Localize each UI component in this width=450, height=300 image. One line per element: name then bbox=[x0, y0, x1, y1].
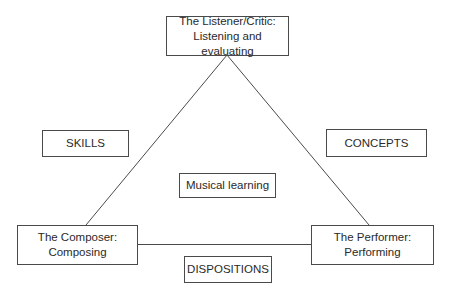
concepts-label: CONCEPTS bbox=[345, 136, 409, 151]
listener-title: The Listener/Critic: bbox=[179, 14, 276, 29]
node-skills: SKILLS bbox=[42, 130, 129, 157]
musical-learning-label: Musical learning bbox=[186, 178, 269, 193]
node-composer: The Composer: Composing bbox=[17, 225, 138, 265]
skills-label: SKILLS bbox=[66, 136, 105, 151]
listener-subtitle: Listening and evaluating bbox=[167, 29, 288, 59]
node-concepts: CONCEPTS bbox=[326, 129, 427, 157]
node-listener-critic: The Listener/Critic: Listening and evalu… bbox=[166, 16, 289, 56]
performer-title: The Performer: bbox=[334, 230, 411, 245]
composer-title: The Composer: bbox=[38, 230, 117, 245]
dispositions-label: DISPOSITIONS bbox=[187, 262, 269, 277]
performer-subtitle: Performing bbox=[344, 245, 400, 260]
node-musical-learning: Musical learning bbox=[179, 173, 276, 198]
node-dispositions: DISPOSITIONS bbox=[184, 256, 272, 283]
node-performer: The Performer: Performing bbox=[311, 225, 434, 265]
composer-subtitle: Composing bbox=[48, 245, 106, 260]
